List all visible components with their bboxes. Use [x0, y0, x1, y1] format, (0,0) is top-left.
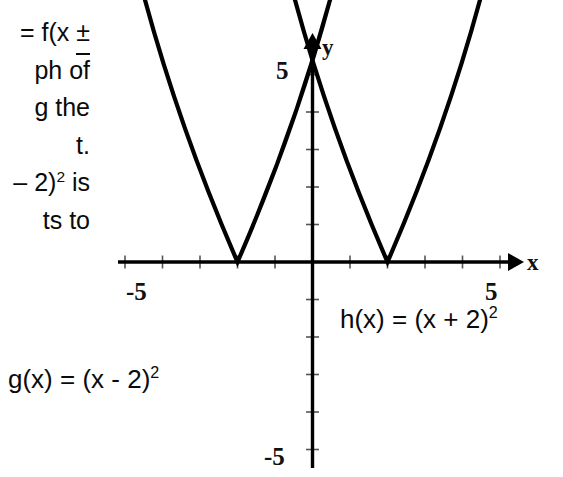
x-axis-label-5: 5	[485, 279, 498, 304]
y-axis	[304, 33, 322, 468]
function-label-h-exponent: 2	[489, 303, 498, 321]
x-axis-label-minus-5: -5	[126, 279, 147, 304]
y-axis-label-minus-5: -5	[264, 444, 285, 469]
y-axis-label-5: 5	[276, 58, 289, 83]
x-axis-name: x	[527, 251, 539, 274]
y-axis-name: y	[322, 36, 334, 59]
function-label-h: h(x) = (x + 2)2	[340, 306, 498, 332]
function-label-g-text: g(x) = (x - 2)	[8, 364, 150, 394]
function-label-g-exponent: 2	[150, 363, 159, 381]
graph-figure: = f(x ± ph of g the t. – 2)2 is ts to	[0, 0, 563, 477]
function-label-g: g(x) = (x - 2)2	[8, 366, 159, 392]
curve-h	[145, 0, 330, 262]
function-label-h-text: h(x) = (x + 2)	[340, 304, 489, 334]
x-axis-arrowhead	[508, 253, 524, 271]
